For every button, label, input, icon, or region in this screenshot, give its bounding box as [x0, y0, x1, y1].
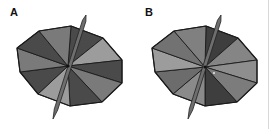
right-border-line: [268, 0, 269, 129]
panel-a-label: A: [10, 7, 18, 18]
figure-canvas: [0, 0, 270, 129]
center-hub-icon: [66, 64, 69, 67]
figure: A B: [0, 0, 270, 129]
panel-b-label: B: [145, 7, 153, 18]
panel-a-octagon-diagram: [17, 15, 122, 119]
center-hub-icon: [203, 65, 206, 68]
marker-dot-icon: [213, 72, 215, 74]
panel-b-octagon-diagram: [152, 15, 257, 119]
